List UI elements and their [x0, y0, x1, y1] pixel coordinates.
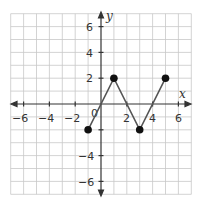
y-axis-up-arrow-icon [99, 12, 104, 18]
x-tick-label: 6 [175, 112, 182, 125]
y-axis-label: y [105, 9, 113, 23]
x-tick-label: 2 [123, 112, 130, 125]
x-tick-label: −4 [38, 112, 54, 125]
x-tick-label: −2 [64, 112, 80, 125]
x-axis-left-arrow-icon [11, 102, 17, 107]
x-tick-labels: −6 −4 −2 2 4 6 0 [12, 107, 182, 125]
point-3-neg2 [136, 126, 144, 134]
coordinate-plane: y x −6 −4 −2 2 4 6 0 6 4 2 −4 −6 [0, 0, 202, 208]
x-tick-label: −6 [12, 112, 28, 125]
y-tick-label: 4 [86, 47, 93, 60]
y-tick-label: 6 [86, 21, 93, 34]
x-tick-label: 4 [149, 112, 156, 125]
x-axis-right-arrow-icon [185, 102, 191, 107]
y-tick-label: −4 [78, 150, 94, 163]
point-1-2 [110, 74, 118, 82]
x-axis-label: x [179, 87, 186, 101]
point-5-2 [162, 74, 170, 82]
y-axis-down-arrow-icon [99, 190, 104, 196]
y-tick-label: 2 [86, 72, 93, 85]
point-neg1-neg2 [84, 126, 92, 134]
y-tick-label: −6 [78, 176, 94, 189]
